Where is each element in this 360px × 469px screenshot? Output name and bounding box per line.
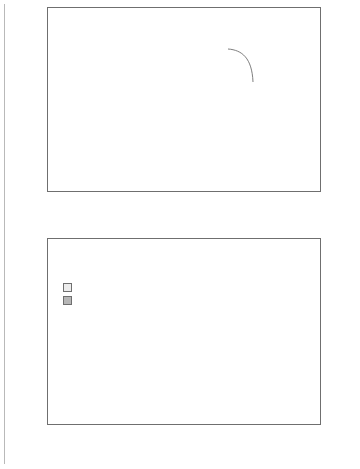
- bottom-bar-chart-svg: [48, 239, 320, 424]
- legend-item-wealthy-nations: [63, 296, 78, 305]
- legend-item-poor-nations: [63, 283, 78, 292]
- top-annotation-leader-line: [226, 44, 266, 86]
- top-area-chart-svg: [48, 8, 320, 191]
- top-plot-frame: [47, 7, 321, 192]
- top-panel: [0, 0, 360, 230]
- bottom-plot-frame: [47, 238, 321, 425]
- legend-swatch-wealthy-icon: [63, 296, 72, 305]
- figure-root: [0, 0, 360, 469]
- bottom-panel: [0, 230, 360, 469]
- legend-swatch-poor-icon: [63, 283, 72, 292]
